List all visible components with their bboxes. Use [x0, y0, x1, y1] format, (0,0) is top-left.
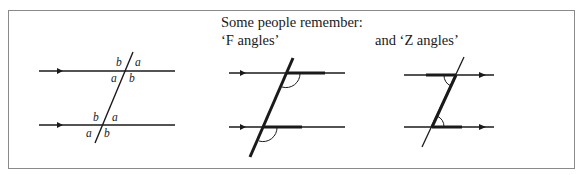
- parallel-arrow-icon: [57, 122, 63, 128]
- angle-label: a: [86, 127, 92, 139]
- z-highlight-diagonal: [432, 75, 456, 127]
- z-angles-diagram: [404, 57, 494, 147]
- angle-label: b: [93, 111, 99, 123]
- angles-diagram: b a a b b a a b: [0, 0, 588, 175]
- f-angles-diagram: [229, 58, 345, 157]
- angle-label: b: [116, 56, 122, 68]
- angle-arc: [437, 116, 444, 127]
- angle-label: b: [104, 127, 110, 139]
- parallel-arrow-icon: [240, 124, 246, 130]
- transversal-line: [95, 52, 133, 143]
- parallel-arrow-icon: [479, 124, 486, 130]
- parallel-arrow-icon: [479, 72, 486, 78]
- angle-arc: [444, 75, 451, 86]
- angle-label: a: [135, 56, 141, 68]
- parallel-arrow-icon: [240, 70, 246, 76]
- angle-label: a: [112, 111, 118, 123]
- angle-label: a: [111, 72, 117, 84]
- angle-label: b: [129, 72, 135, 84]
- parallel-arrow-icon: [57, 68, 63, 74]
